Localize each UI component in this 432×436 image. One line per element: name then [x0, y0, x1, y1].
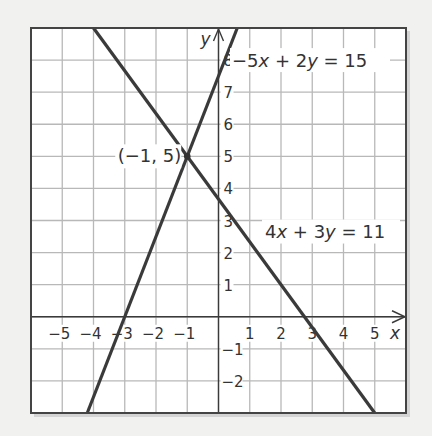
y-tick-label: 6 [224, 116, 234, 134]
x-tick-label: −4 [79, 325, 101, 343]
x-tick-label: 4 [339, 325, 349, 343]
intersection-label: (−1, 5) [118, 145, 181, 166]
eq2-rhs: = 11 [336, 221, 385, 242]
y-tick-label: 4 [224, 180, 234, 198]
equation-2-label: 4x + 3y = 11 [265, 221, 385, 242]
y-axis-label: y [200, 29, 212, 49]
eq2-var-y: y [324, 221, 336, 242]
eq1-coef-2: + 2 [269, 50, 307, 71]
intersection-point [184, 153, 191, 160]
y-tick-label: 1 [224, 277, 234, 295]
x-tick-label: −5 [48, 325, 70, 343]
x-axis-label: x [389, 323, 401, 343]
y-tick-label: −2 [222, 373, 244, 391]
eq2-coef-2: + 3 [287, 221, 325, 242]
eq2-coef-1: 4 [265, 221, 276, 242]
x-tick-label: 2 [276, 325, 286, 343]
y-tick-label: 2 [224, 245, 234, 263]
y-tick-label: 5 [224, 148, 234, 166]
eq1-var-y: y [306, 50, 318, 71]
eq1-coef-1: −5 [232, 50, 259, 71]
eq2-var-x: x [275, 221, 287, 242]
x-tick-label: 1 [245, 325, 255, 343]
x-tick-label: 5 [370, 325, 380, 343]
coordinate-graph: −5−4−3−2−112345 87654321−1−2 x y (−1, 5)… [0, 0, 432, 436]
x-tick-label: −1 [173, 325, 195, 343]
y-tick-label: 7 [224, 84, 234, 102]
x-tick-label: −2 [142, 325, 164, 343]
equation-1-label: −5x + 2y = 15 [232, 50, 367, 71]
y-tick-label: −1 [222, 341, 244, 359]
eq1-var-x: x [258, 50, 270, 71]
eq1-rhs: = 15 [318, 50, 367, 71]
